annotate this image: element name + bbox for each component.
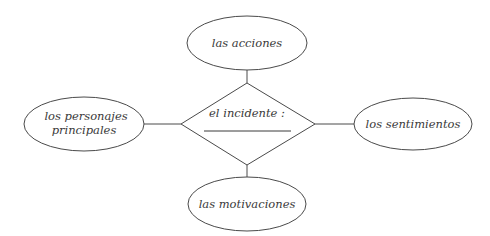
node-left-label-line2: principales: [52, 123, 117, 137]
node-bottom: las motivaciones: [188, 177, 306, 231]
node-left-label-line1: los personajes: [44, 109, 127, 123]
diagram-svg: el incidente : las acciones los personaj…: [0, 0, 490, 236]
node-left: los personajes principales: [24, 97, 144, 151]
node-top: las acciones: [187, 16, 307, 70]
diamond-shape: [181, 83, 315, 165]
center-diamond-node: el incidente :: [181, 83, 315, 165]
story-map-diagram: el incidente : las acciones los personaj…: [0, 0, 490, 236]
node-right: los sentimientos: [354, 98, 472, 150]
node-bottom-label: las motivaciones: [199, 197, 296, 211]
node-top-label: las acciones: [212, 36, 283, 50]
center-label: el incidente :: [209, 106, 285, 120]
node-right-label: los sentimientos: [366, 117, 461, 131]
